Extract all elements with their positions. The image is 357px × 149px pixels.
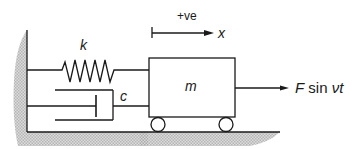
force-label: F sin νt — [295, 80, 343, 95]
mass-label: m — [185, 79, 197, 93]
spring — [27, 60, 149, 82]
spring-label: k — [80, 38, 87, 52]
displacement-label: x — [218, 26, 225, 40]
damper-label: c — [120, 89, 127, 103]
force-amplitude: F — [295, 79, 304, 96]
positive-direction-arrow — [152, 27, 206, 38]
force-argument: νt — [332, 79, 344, 96]
wheel-right — [219, 118, 233, 132]
wheel-left — [151, 118, 165, 132]
direction-sign-label: +ve — [177, 10, 197, 22]
force-arrowhead-icon — [280, 86, 289, 91]
positive-direction-arrowhead-icon — [204, 30, 214, 36]
force-sin: sin — [308, 79, 327, 96]
damper — [27, 90, 149, 120]
floor-hatching — [140, 132, 280, 146]
